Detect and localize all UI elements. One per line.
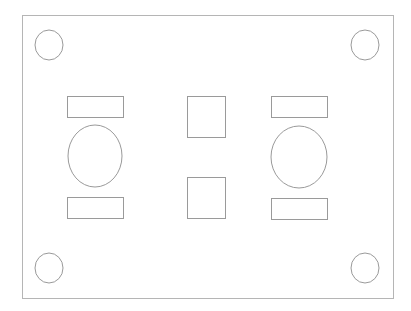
- mounting-hole-4: [351, 253, 379, 283]
- mounting-hole-3: [35, 253, 63, 283]
- outer-board: [23, 16, 394, 299]
- board-diagram: [0, 0, 411, 311]
- right-ellipse: [271, 126, 327, 188]
- mounting-hole-2: [351, 30, 379, 60]
- left-bottom-pad: [68, 198, 124, 219]
- center-square-1: [188, 97, 226, 138]
- left-top-pad: [68, 97, 124, 118]
- mounting-hole-1: [35, 30, 63, 60]
- right-top-pad: [272, 97, 328, 118]
- center-square-2: [188, 178, 226, 219]
- left-ellipse: [68, 125, 122, 187]
- right-bottom-pad: [272, 199, 328, 220]
